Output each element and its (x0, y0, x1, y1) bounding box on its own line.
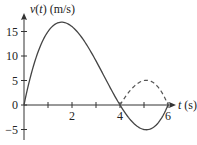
v-axis-title: v(t) (m/s) (30, 2, 75, 16)
t-tick-label: 4 (117, 109, 123, 123)
axes (21, 13, 176, 140)
v-tick-label: −5 (5, 123, 18, 137)
v-tick-label: 15 (6, 25, 18, 39)
t-axis-arrow-icon (169, 102, 176, 108)
velocity-curve (24, 22, 168, 130)
v-axis-arrow-icon (21, 13, 27, 20)
v-tick-label: 5 (12, 74, 18, 88)
v-tick-label: 0 (12, 98, 18, 112)
t-tick-label: 6 (165, 109, 171, 123)
reflected-speed-curve (120, 80, 168, 105)
t-axis-title: t (s) (178, 98, 197, 112)
t-tick-label: 2 (69, 109, 75, 123)
plot-area (24, 22, 168, 130)
velocity-chart: 246−5051015v(t) (m/s)t (s) (0, 0, 197, 145)
v-tick-label: 10 (6, 49, 18, 63)
